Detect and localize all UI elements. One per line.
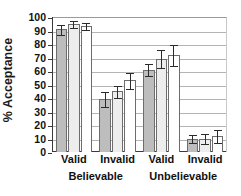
y-tick-label: 50 xyxy=(34,79,46,90)
error-bar-cap-top xyxy=(145,64,153,65)
y-tick-mark xyxy=(48,126,52,127)
y-tick-mark xyxy=(48,86,52,87)
bar xyxy=(156,59,168,152)
y-tick-label: 80 xyxy=(34,39,46,50)
y-tick-label: 20 xyxy=(34,120,46,131)
x-category-label: Valid xyxy=(149,154,175,165)
bar xyxy=(68,24,80,152)
error-bar-cap-top xyxy=(57,25,65,26)
error-bar-cap-top xyxy=(82,23,90,24)
y-tick-label: 60 xyxy=(34,66,46,77)
y-tick-label: 70 xyxy=(34,52,46,63)
y-tick-mark xyxy=(48,45,52,46)
y-tick-label: 90 xyxy=(34,25,46,36)
x-axis-category-labels: ValidInvalidValidInvalid xyxy=(52,154,227,170)
bar xyxy=(56,29,68,152)
error-bar-cap-top xyxy=(70,21,78,22)
bar xyxy=(168,55,180,152)
y-tick-mark xyxy=(48,18,52,19)
error-bar-cap-top xyxy=(201,134,209,135)
y-axis-title: % Acceptance xyxy=(0,0,17,160)
bar xyxy=(99,99,111,152)
y-tick-label: 100 xyxy=(28,12,46,23)
bar xyxy=(112,91,124,152)
bar xyxy=(143,70,155,152)
error-bar-cap-top xyxy=(214,130,222,131)
bar xyxy=(212,136,224,152)
y-tick-mark xyxy=(48,113,52,114)
x-category-label: Invalid xyxy=(100,154,135,165)
bar xyxy=(124,80,136,152)
y-tick-mark xyxy=(48,32,52,33)
plot-area xyxy=(52,17,227,152)
error-bar-cap-top xyxy=(157,50,165,51)
x-category-label: Valid xyxy=(61,154,87,165)
bar xyxy=(81,26,93,152)
bar-chart: % Acceptance 0102030405060708090100 Vali… xyxy=(0,0,241,196)
y-axis-tick-labels: 0102030405060708090100 xyxy=(17,0,49,196)
x-group-label: Unbelievable xyxy=(149,171,217,182)
x-group-label: Believable xyxy=(69,171,123,182)
error-bar-cap-top xyxy=(170,45,178,46)
error-bar-cap-top xyxy=(101,92,109,93)
y-axis-title-text: % Acceptance xyxy=(2,38,16,122)
y-tick-label: 40 xyxy=(34,93,46,104)
bar xyxy=(187,139,199,153)
y-tick-label: 10 xyxy=(34,133,46,144)
y-tick-mark xyxy=(48,59,52,60)
y-tick-label: 0 xyxy=(40,147,46,158)
y-tick-mark xyxy=(48,140,52,141)
error-bar-cap-top xyxy=(189,135,197,136)
error-bar-cap-top xyxy=(114,86,122,87)
x-axis-group-labels: BelievableUnbelievable xyxy=(52,171,227,187)
error-bar-cap-top xyxy=(126,73,134,74)
y-tick-mark xyxy=(48,72,52,73)
y-tick-label: 30 xyxy=(34,106,46,117)
bars-layer xyxy=(52,18,226,152)
y-tick-mark xyxy=(48,99,52,100)
x-category-label: Invalid xyxy=(188,154,223,165)
bar xyxy=(199,139,211,153)
